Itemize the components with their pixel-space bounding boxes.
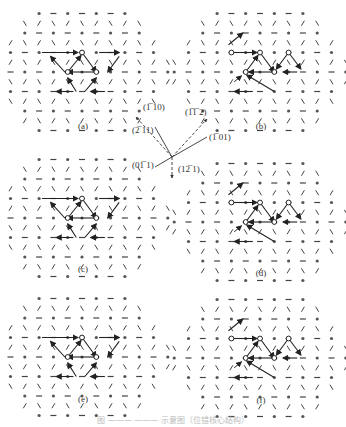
atom bbox=[66, 297, 69, 300]
atom bbox=[166, 355, 169, 358]
atom bbox=[80, 316, 83, 319]
atom bbox=[9, 51, 12, 54]
atom bbox=[258, 109, 261, 112]
atom bbox=[230, 259, 233, 262]
atom bbox=[187, 240, 190, 243]
atom bbox=[287, 395, 290, 398]
panel-label-e: (e) bbox=[78, 394, 88, 404]
panel-label-c: (c) bbox=[78, 264, 88, 274]
atom bbox=[301, 337, 304, 340]
displacement-arrow bbox=[289, 53, 301, 70]
atom bbox=[216, 201, 219, 204]
atom bbox=[66, 129, 69, 132]
atom bbox=[273, 337, 276, 340]
panel-e: (e) bbox=[0, 297, 169, 417]
atom bbox=[109, 255, 112, 258]
atom bbox=[38, 12, 41, 15]
panel-label-b: (b) bbox=[256, 121, 267, 131]
atom bbox=[152, 336, 155, 339]
atom bbox=[123, 375, 126, 378]
atom bbox=[244, 279, 247, 282]
displacement-arrow bbox=[289, 203, 301, 220]
atom bbox=[80, 31, 83, 34]
atom bbox=[287, 109, 290, 112]
atom bbox=[52, 255, 55, 258]
atom bbox=[316, 109, 319, 112]
displacement-arrow bbox=[246, 56, 258, 73]
core-atom bbox=[286, 336, 291, 341]
atom bbox=[316, 395, 319, 398]
atom bbox=[187, 90, 190, 93]
core-atom bbox=[258, 336, 263, 341]
displacement-arrow bbox=[247, 361, 275, 378]
atom bbox=[95, 158, 98, 161]
core-atom bbox=[272, 70, 277, 75]
atom bbox=[230, 31, 233, 34]
displacement-arrow bbox=[246, 206, 258, 223]
atom bbox=[95, 275, 98, 278]
displacement-arrow bbox=[289, 339, 301, 356]
atom bbox=[316, 70, 319, 73]
atom bbox=[273, 51, 276, 54]
direction-vector bbox=[155, 157, 172, 167]
core-atom bbox=[286, 50, 291, 55]
displacement-arrow bbox=[246, 342, 258, 359]
atom bbox=[23, 216, 26, 219]
atom bbox=[109, 394, 112, 397]
atom bbox=[273, 298, 276, 301]
atom bbox=[287, 181, 290, 184]
atom bbox=[316, 181, 319, 184]
displacement-arrow bbox=[85, 363, 96, 377]
atom bbox=[216, 162, 219, 165]
atom bbox=[244, 12, 247, 15]
atom bbox=[244, 298, 247, 301]
atom bbox=[316, 31, 319, 34]
atom bbox=[187, 51, 190, 54]
atom bbox=[230, 181, 233, 184]
core-atom bbox=[272, 356, 277, 361]
atom bbox=[258, 259, 261, 262]
atom bbox=[109, 70, 112, 73]
displacement-arrow bbox=[260, 339, 274, 359]
atom bbox=[201, 181, 204, 184]
atom bbox=[123, 275, 126, 278]
atom bbox=[301, 201, 304, 204]
core-atom bbox=[272, 220, 277, 225]
displacement-arrow bbox=[276, 203, 288, 220]
atom bbox=[173, 70, 176, 73]
panel-d: (d) bbox=[173, 162, 346, 282]
atom bbox=[216, 279, 219, 282]
atom bbox=[230, 356, 233, 359]
displacement-arrow bbox=[260, 203, 274, 223]
crystal-direction-legend: (1̅ 10)(2̅ 11)(1̅1̅ 2)(1̅ 01)(01̅ 1)(12̅… bbox=[132, 102, 231, 178]
displacement-arrow bbox=[229, 33, 243, 45]
direction-vector bbox=[155, 127, 172, 157]
atom bbox=[201, 220, 204, 223]
core-atom bbox=[80, 50, 85, 55]
atom bbox=[230, 220, 233, 223]
atom bbox=[38, 236, 41, 239]
atom bbox=[187, 376, 190, 379]
displacement-arrow bbox=[51, 56, 65, 72]
displacement-arrow bbox=[247, 225, 275, 242]
atom bbox=[301, 90, 304, 93]
panel-label-f: (f) bbox=[257, 395, 266, 405]
displacement-arrow bbox=[68, 202, 81, 219]
direction-label: (1̅ 10) bbox=[143, 102, 165, 112]
atom bbox=[52, 70, 55, 73]
displacement-arrow bbox=[234, 76, 241, 82]
atom bbox=[330, 90, 333, 93]
atom bbox=[301, 240, 304, 243]
atom bbox=[301, 12, 304, 15]
core-atom bbox=[80, 335, 85, 340]
panel-label-a: (a) bbox=[78, 121, 88, 131]
atom bbox=[273, 201, 276, 204]
atom bbox=[52, 31, 55, 34]
atom bbox=[38, 275, 41, 278]
figure-caption: 图 ——— ——— 示意图（位错核心结构） bbox=[0, 414, 346, 425]
displacement-arrow bbox=[108, 202, 119, 218]
atom bbox=[152, 197, 155, 200]
atom bbox=[230, 109, 233, 112]
atom bbox=[258, 31, 261, 34]
atom bbox=[9, 375, 12, 378]
